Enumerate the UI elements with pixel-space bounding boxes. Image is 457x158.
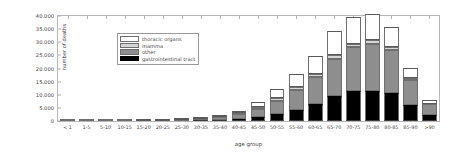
bar-segment: [193, 117, 208, 119]
bar-segment: [289, 90, 304, 110]
y-tick-mark: [58, 16, 61, 17]
bar-segment: [365, 40, 380, 43]
bar-segment: [174, 118, 189, 120]
plot-area: number of deaths 05.00010.00015.00020.00…: [57, 15, 440, 122]
x-tick-mark: [277, 16, 278, 19]
x-tick-label: 55-60: [289, 124, 303, 130]
bar: [327, 31, 342, 121]
bar-segment: [403, 68, 418, 78]
y-tick-label: 35.000: [36, 26, 58, 32]
bar-segment: [155, 119, 170, 121]
bar: [212, 115, 227, 121]
y-tick-mark: [58, 55, 61, 56]
x-tick-mark: [220, 16, 221, 19]
bar-segment: [232, 119, 247, 121]
x-tick-mark: [391, 16, 392, 19]
x-tick-mark: [239, 16, 240, 19]
y-tick-label: 10.000: [36, 92, 58, 98]
bar: [422, 100, 437, 121]
x-tick-label: < 1: [63, 124, 72, 130]
bar: [60, 120, 75, 121]
bar-segment: [212, 115, 227, 117]
chart-figure: number of deaths 05.00010.00015.00020.00…: [0, 0, 457, 158]
bar-segment: [251, 117, 266, 121]
bar-segment: [308, 74, 323, 77]
bar-segment: [308, 104, 323, 121]
x-tick-mark: [296, 16, 297, 19]
x-tick-label: 75-80: [365, 124, 379, 130]
x-tick-mark: [410, 16, 411, 19]
bar-segment: [422, 100, 437, 103]
bar-segment: [346, 47, 361, 91]
bar-segment: [308, 77, 323, 104]
bar-segment: [232, 111, 247, 113]
x-axis-title: age group: [57, 141, 440, 147]
legend-swatch-other: [120, 49, 139, 54]
bar-segment: [98, 119, 113, 121]
x-tick-label: 85-90: [403, 124, 417, 130]
y-tick-label: 15.000: [36, 79, 58, 85]
bar-segment: [384, 50, 399, 93]
bar-segment: [232, 114, 247, 119]
bar: [155, 120, 170, 121]
bar-segment: [403, 105, 418, 121]
legend-item: other: [120, 49, 195, 55]
bar-segment: [384, 47, 399, 50]
x-tick-label: 50-55: [270, 124, 284, 130]
bar-segment: [403, 80, 418, 105]
bar-segment: [308, 56, 323, 74]
x-tick-label: 5-10: [100, 124, 111, 130]
bar-segment: [327, 96, 342, 121]
bar-segment: [384, 93, 399, 121]
x-tick-mark: [201, 16, 202, 19]
x-tick-label: 20-25: [156, 124, 170, 130]
bar: [403, 68, 418, 121]
x-tick-mark: [334, 16, 335, 19]
bar-segment: [346, 17, 361, 44]
x-tick-label: 65-70: [327, 124, 341, 130]
bar-segment: [327, 55, 342, 58]
x-tick-label: >90: [424, 124, 434, 130]
bar-segment: [251, 107, 266, 109]
y-tick-mark: [58, 68, 61, 69]
bar: [346, 17, 361, 121]
bar-segment: [422, 115, 437, 121]
bar-segment: [270, 98, 285, 101]
x-tick-mark: [125, 16, 126, 19]
x-tick-mark: [144, 16, 145, 19]
bar-segment: [365, 14, 380, 40]
legend-label: other: [142, 49, 156, 55]
bar: [98, 120, 113, 121]
x-tick-label: 30-35: [194, 124, 208, 130]
x-tick-label: 60-65: [308, 124, 322, 130]
bar-segment: [327, 31, 342, 55]
bar: [308, 56, 323, 121]
bar: [136, 120, 151, 121]
x-tick-label: 15-20: [137, 124, 151, 130]
legend-swatch-gastrointestinal-tract: [120, 56, 139, 61]
y-axis-label: number of deaths: [61, 0, 67, 101]
x-tick-label: 45-50: [251, 124, 265, 130]
legend-swatch-mamma: [120, 43, 139, 48]
bar-segment: [289, 110, 304, 121]
bar: [365, 14, 380, 121]
bar-segment: [251, 109, 266, 117]
bar-segment: [365, 91, 380, 121]
x-tick-mark: [429, 16, 430, 19]
bar-segment: [251, 102, 266, 107]
bar-segment: [365, 44, 380, 91]
x-tick-mark: [182, 16, 183, 19]
x-tick-mark: [106, 16, 107, 19]
legend-item: thoracic organs: [120, 36, 195, 42]
chart-legend: thoracic organs mamma other gastrointest…: [117, 33, 199, 65]
bar: [117, 120, 132, 121]
legend-label: thoracic organs: [142, 36, 182, 42]
y-tick-mark: [58, 81, 61, 82]
bar-segment: [422, 104, 437, 115]
x-tick-label: 70-75: [346, 124, 360, 130]
bar: [270, 89, 285, 121]
x-tick-label: 35-40: [213, 124, 227, 130]
x-tick-mark: [258, 16, 259, 19]
bar-segment: [270, 101, 285, 115]
x-tick-mark: [68, 16, 69, 19]
